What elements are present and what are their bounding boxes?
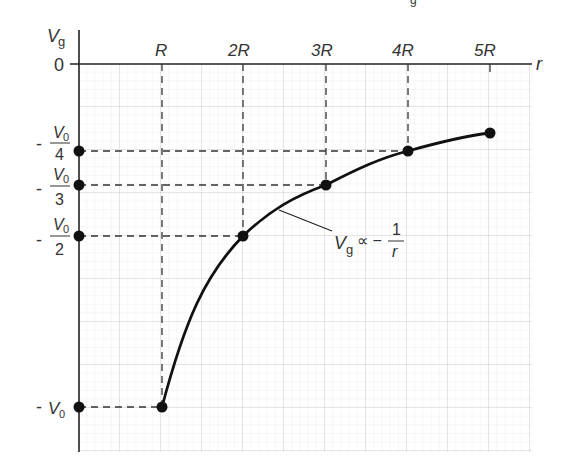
svg-text:4: 4 [55,146,64,163]
svg-text:3: 3 [55,191,64,208]
cropped-subscript: g [410,0,417,7]
svg-text:r: r [392,243,398,260]
x-tick-2R: 2R [227,41,250,60]
svg-text:2: 2 [55,241,64,258]
svg-text:0: 0 [59,408,65,420]
svg-text:∝ −: ∝ − [357,232,382,249]
grid-major [79,64,532,452]
y-tick-v0-over-2: V 0 - 2 [36,216,70,258]
x-tick-R: R [155,41,167,60]
x-tick-4R: 4R [392,41,414,60]
svg-text:-: - [36,179,42,199]
svg-text:-: - [36,397,42,417]
x-tick-3R: 3R [311,41,333,60]
y-tick-v0-over-3: V 0 - 3 [36,166,70,208]
y-tick-v0-over-4: - V 0 4 [36,124,70,163]
svg-text:0: 0 [63,131,69,143]
svg-text:-: - [36,134,42,154]
svg-text:g: g [346,242,353,257]
potential-chart: R 2R 3R 4R 5R g r V g 0 - V 0 4 V 0 - 3 … [0,0,567,464]
y-axis-label-sub: g [58,34,65,49]
svg-text:1: 1 [392,221,401,238]
x-axis-label: r [536,54,543,74]
svg-text:0: 0 [63,223,69,235]
svg-text:0: 0 [63,173,69,185]
svg-text:-: - [36,230,42,250]
x-tick-5R: 5R [474,41,496,60]
y-tick-minus-v0: - V 0 [36,397,65,420]
y-tick-zero: 0 [54,55,64,75]
